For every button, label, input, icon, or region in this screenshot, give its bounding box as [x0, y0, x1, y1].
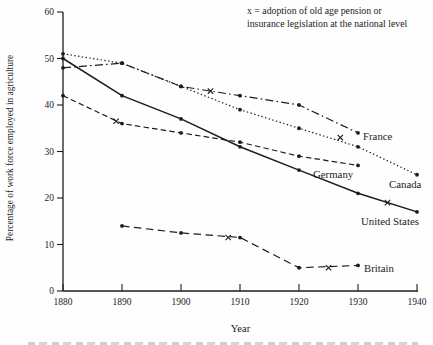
germany-point	[297, 154, 301, 158]
germany-point	[179, 131, 183, 135]
united-states-point	[61, 57, 65, 61]
chart-annotation-line2: insurance legislation at the national le…	[247, 18, 407, 31]
united-states-point	[238, 145, 242, 149]
canada-point	[238, 108, 242, 112]
plot-area: 0102030405060188018901900191019201930194…	[0, 0, 433, 345]
united-states-point	[179, 117, 183, 121]
x-axis-label: Year	[63, 323, 418, 334]
germany-label: Germany	[313, 168, 354, 180]
canada-line	[63, 54, 417, 175]
y-tick-label: 0	[49, 286, 54, 296]
canada-point	[356, 145, 360, 149]
france-point	[356, 131, 360, 135]
x-tick-label: 1890	[113, 297, 132, 307]
france-label: France	[363, 130, 393, 142]
y-tick-label: 60	[45, 7, 55, 17]
britain-point	[356, 264, 360, 268]
y-tick-label: 20	[45, 193, 55, 203]
agriculture-employment-chart: 0102030405060188018901900191019201930194…	[0, 0, 433, 345]
chart-annotation-line1: x = adoption of old age pension or	[247, 5, 407, 18]
united-states-point	[356, 191, 360, 195]
y-tick-label: 10	[45, 240, 55, 250]
france-line	[63, 63, 358, 133]
canada-point	[61, 52, 65, 56]
germany-point	[238, 140, 242, 144]
france-point	[120, 61, 124, 65]
britain-point	[179, 231, 183, 235]
france-point	[297, 103, 301, 107]
britain-point	[238, 236, 242, 240]
united-states-point	[297, 168, 301, 172]
chart-annotation: x = adoption of old age pension or insur…	[247, 5, 407, 30]
united-states-label: United States	[361, 215, 419, 227]
france-point	[238, 94, 242, 98]
canada-point	[297, 126, 301, 130]
britain-point	[120, 224, 124, 228]
y-tick-label: 50	[45, 54, 55, 64]
france-point	[61, 66, 65, 70]
united-states-point	[415, 210, 419, 214]
germany-point	[120, 122, 124, 126]
canada-point	[415, 173, 419, 177]
germany-point	[61, 94, 65, 98]
germany-point	[356, 164, 360, 168]
france-point	[179, 85, 183, 89]
x-tick-label: 1910	[231, 297, 250, 307]
canada-label: Canada	[389, 178, 422, 190]
x-tick-label: 1900	[172, 297, 191, 307]
united-states-point	[120, 94, 124, 98]
x-tick-label: 1930	[349, 297, 368, 307]
x-tick-label: 1940	[408, 297, 427, 307]
germany-line	[63, 96, 358, 166]
britain-line	[122, 226, 358, 268]
x-tick-label: 1880	[54, 297, 73, 307]
britain-label: Britain	[364, 262, 395, 274]
x-tick-label: 1920	[290, 297, 309, 307]
y-axis-label: Percentage of work force employed in agr…	[5, 55, 15, 241]
britain-point	[297, 266, 301, 270]
y-tick-label: 40	[45, 100, 55, 110]
y-tick-label: 30	[45, 147, 55, 157]
